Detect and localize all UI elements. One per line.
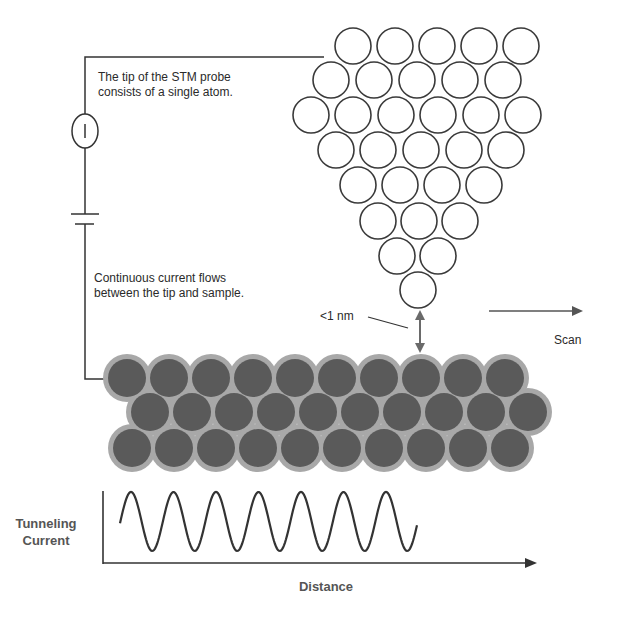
sample-atom — [491, 429, 529, 467]
tip-atom — [340, 167, 376, 203]
current-note: Continuous current flows between the tip… — [94, 271, 244, 301]
stm-diagram — [0, 0, 620, 635]
tip-atom — [503, 28, 539, 64]
sample-atom — [341, 393, 379, 431]
tip-atom — [379, 238, 415, 274]
tip-atom — [461, 28, 497, 64]
circuit — [71, 57, 324, 379]
tip-atom — [485, 62, 521, 98]
sample-atom — [509, 393, 547, 431]
gap-label: <1 nm — [320, 309, 354, 324]
sample-atom — [276, 359, 314, 397]
graph-x-axis-arrowhead — [525, 558, 537, 568]
sample-atom — [113, 429, 151, 467]
tip-atom — [403, 132, 439, 168]
tip-atom — [382, 167, 418, 203]
sample-atom — [257, 393, 295, 431]
sample-atom — [234, 359, 272, 397]
gap-leader-line — [368, 317, 408, 328]
sample-atom — [444, 359, 482, 397]
sample-atom — [425, 393, 463, 431]
probe-tip-atoms — [293, 28, 541, 308]
tunneling-current-wave — [120, 492, 417, 551]
tip-atom — [360, 132, 396, 168]
tip-atom — [378, 97, 414, 133]
sample-atom — [155, 429, 193, 467]
tip-atom — [335, 97, 371, 133]
sample-atom — [239, 429, 277, 467]
sample-atom — [383, 393, 421, 431]
current-graph — [103, 491, 537, 568]
scan-label: Scan — [554, 333, 581, 348]
sample-atom — [150, 359, 188, 397]
sample-atom — [215, 393, 253, 431]
tip-atom — [420, 238, 456, 274]
sample-atom — [323, 429, 361, 467]
sample-atom — [192, 359, 230, 397]
sample-atom — [486, 359, 524, 397]
tip-atom — [400, 272, 436, 308]
sample-atom — [299, 393, 337, 431]
tip-atom — [466, 167, 502, 203]
scan-arrow-icon — [489, 306, 583, 316]
tip-atom — [446, 132, 482, 168]
tip-atom — [335, 28, 371, 64]
tip-atom — [424, 167, 460, 203]
tip-atom — [313, 62, 349, 98]
sample-atom — [197, 429, 235, 467]
tip-atom — [318, 132, 354, 168]
tip-atom — [399, 62, 435, 98]
tip-atom — [505, 97, 541, 133]
sample-atom — [360, 359, 398, 397]
tip-atom — [442, 203, 478, 239]
sample-atom — [402, 359, 440, 397]
sample-atom — [318, 359, 356, 397]
tip-atom — [356, 62, 392, 98]
graph-x-label: Distance — [286, 578, 366, 595]
graph-y-label: Tunneling Current — [8, 515, 84, 549]
circuit-wire-bottom — [85, 224, 104, 379]
sample-atom — [449, 429, 487, 467]
tip-atom — [488, 132, 524, 168]
sample-atom — [365, 429, 403, 467]
tip-atom — [360, 203, 396, 239]
sample-atoms — [108, 359, 547, 467]
tip-atom — [463, 97, 499, 133]
sample-atom — [131, 393, 169, 431]
tip-atom — [401, 203, 437, 239]
sample-atom — [173, 393, 211, 431]
tip-atom — [377, 28, 413, 64]
tip-atom — [420, 97, 456, 133]
sample-atom — [467, 393, 505, 431]
tip-atom — [419, 28, 455, 64]
sample-atom — [281, 429, 319, 467]
sample-atom — [108, 359, 146, 397]
gap-double-arrow-icon — [415, 310, 425, 353]
tip-atom — [293, 97, 329, 133]
tip-note: The tip of the STM probe consists of a s… — [98, 70, 233, 100]
tip-atom — [442, 62, 478, 98]
sample-atom — [407, 429, 445, 467]
